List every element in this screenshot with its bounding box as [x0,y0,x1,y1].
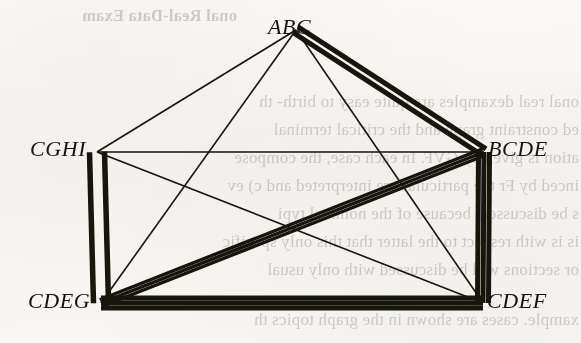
edge-cdeg-cdef [101,298,483,308]
node-label-cdef: CDEF [487,288,547,314]
edge-strand [294,33,482,155]
edge-strand [478,152,479,303]
edge-strand [104,152,108,303]
edge-strand [90,152,94,303]
edge-cghi-cdeg [90,152,109,303]
graph-figure: onal Real-Data Examonal real dexamples a… [0,0,581,343]
edge-bcde-cdef [478,152,490,303]
edge-bcde-cdeg [100,149,486,307]
edge-abc-bcde [294,27,486,155]
node-label-bcde: BCDE [488,136,548,162]
edge-strand [488,152,489,303]
edge-strand [298,27,486,149]
edge-group [90,27,490,308]
edge-strand [483,152,484,303]
node-label-cdeg: CDEG [28,288,90,314]
edge-abc-cghi [97,30,296,152]
edge-strand [102,155,485,306]
edge-strand [97,30,296,152]
node-label-abc: ABC [268,14,311,40]
node-label-cghi: CGHI [30,136,86,162]
